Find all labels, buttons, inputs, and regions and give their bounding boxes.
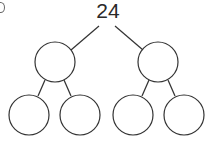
branch-right-left	[142, 80, 149, 96]
blank-circle-level2-3[interactable]	[113, 95, 153, 135]
branch-left-right	[64, 80, 71, 96]
branch-right-right	[168, 80, 175, 96]
blank-circle-level1-left[interactable]	[35, 42, 75, 82]
blank-circle-level2-1[interactable]	[9, 95, 49, 135]
branch-left-left	[38, 80, 45, 96]
blank-circle-level1-right[interactable]	[138, 42, 178, 82]
blank-circle-level2-4[interactable]	[164, 95, 204, 135]
branch-root-left	[71, 26, 99, 50]
blank-circle-level2-2[interactable]	[60, 95, 100, 135]
factor-tree-diagram: 24	[0, 0, 211, 146]
tree-graphics	[0, 0, 211, 146]
branch-root-right	[115, 26, 143, 50]
